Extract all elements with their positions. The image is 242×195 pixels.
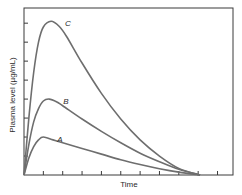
curve-a — [24, 137, 200, 175]
y-axis-label: Plasma level (µg/mL) — [8, 57, 17, 133]
curves — [24, 21, 200, 175]
plasma-level-chart: ABC Time Plasma level (µg/mL) — [0, 0, 242, 195]
curve-b — [24, 99, 200, 175]
plot-frame — [24, 8, 233, 175]
chart-canvas: ABC Time Plasma level (µg/mL) — [0, 0, 242, 195]
curve-label-c: C — [65, 19, 71, 28]
x-axis-label: Time — [120, 180, 138, 189]
curve-labels: ABC — [56, 19, 71, 144]
curve-label-b: B — [63, 97, 69, 106]
curve-c — [24, 21, 200, 175]
curve-label-a: A — [56, 135, 62, 144]
